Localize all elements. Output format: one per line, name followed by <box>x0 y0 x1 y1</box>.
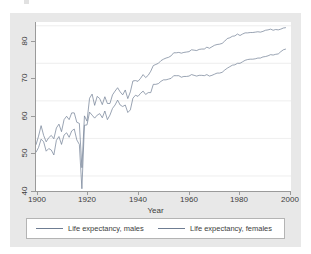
legend-entry-males[interactable]: Life expectancy, males <box>36 219 144 238</box>
capture-artifact <box>24 0 29 4</box>
legend-entry-females[interactable]: Life expectancy, females <box>158 219 272 238</box>
gridlines <box>36 26 291 176</box>
x-tick-label-1960: 1960 <box>172 195 206 205</box>
legend-line-key-females <box>158 228 185 229</box>
legend-label-males: Life expectancy, males <box>68 224 144 233</box>
x-tick-label-1920: 1920 <box>70 195 104 205</box>
x-axis-line <box>35 191 291 192</box>
x-tick-label-1980: 1980 <box>222 195 256 205</box>
chart-legend: Life expectancy, males Life expectancy, … <box>26 218 285 239</box>
plot-region <box>36 22 291 191</box>
series-line-females <box>36 28 286 168</box>
x-tick-label-2000: 2000 <box>273 195 307 205</box>
graph-region: 40 50 60 70 80 1900 1920 1940 <box>10 13 301 247</box>
chart-canvas <box>36 22 291 191</box>
y-tick-label-60: 60 <box>18 109 32 123</box>
series-line-males <box>36 49 286 189</box>
x-axis-title: Year <box>10 206 301 215</box>
legend-label-females: Life expectancy, females <box>190 224 272 233</box>
y-tick-label-80: 80 <box>18 34 32 48</box>
y-tick-label-70: 70 <box>18 71 32 85</box>
x-tick-label-1940: 1940 <box>121 195 155 205</box>
figure: 40 50 60 70 80 1900 1920 1940 <box>0 0 311 254</box>
y-tick-label-50: 50 <box>18 146 32 160</box>
x-tick-label-1900: 1900 <box>20 195 54 205</box>
legend-line-key-males <box>36 228 63 229</box>
